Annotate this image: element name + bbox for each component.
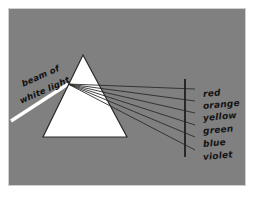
spectrum-label-blue: blue bbox=[203, 137, 227, 149]
prism-dispersion-figure: beam of white light red orange yellow gr… bbox=[0, 0, 255, 198]
spectrum-label-red: red bbox=[203, 87, 221, 98]
diagram-panel: beam of white light red orange yellow gr… bbox=[8, 8, 246, 186]
